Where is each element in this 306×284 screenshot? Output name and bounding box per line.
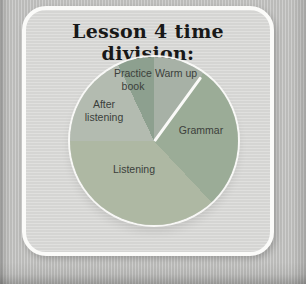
slice-label-grammar: Grammar bbox=[170, 124, 232, 137]
slide-background: Lesson 4 time division: Warm up Grammar … bbox=[0, 0, 306, 284]
slice-label-after-listening: After listening bbox=[78, 98, 130, 124]
slice-label-listening: Listening bbox=[104, 163, 164, 176]
pie-chart: Warm up Grammar Listening After listenin… bbox=[70, 57, 238, 225]
slice-label-practice-book: Practice book bbox=[102, 67, 164, 93]
